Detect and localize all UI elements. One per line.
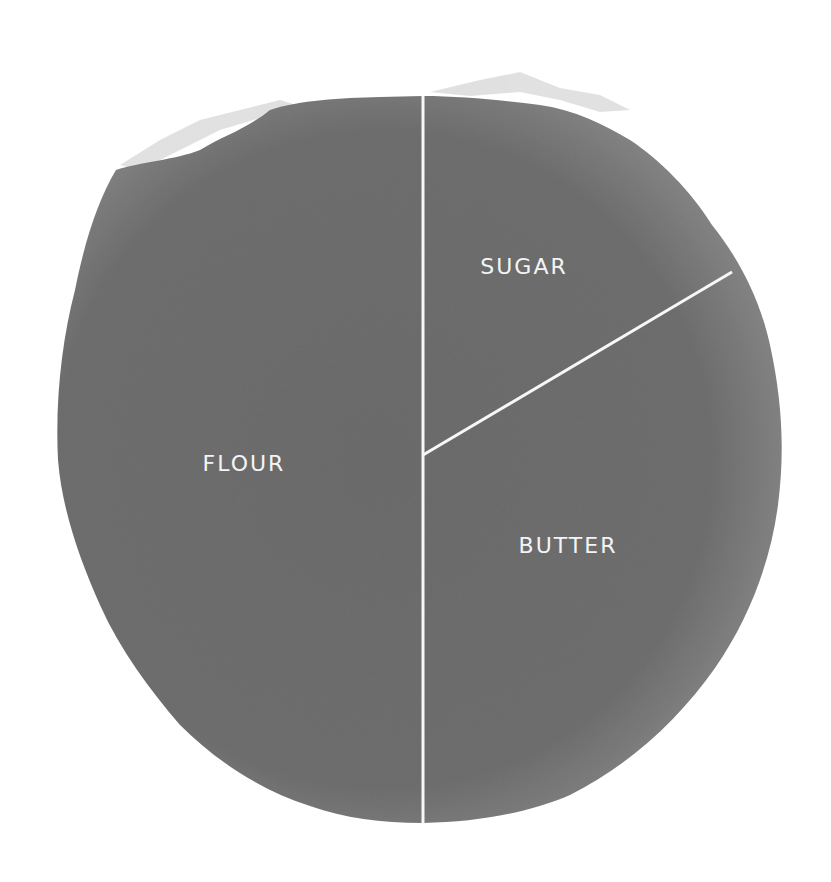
slice-label-flour: FLOUR xyxy=(203,451,286,476)
pie-chart-svg xyxy=(0,0,831,882)
slice-label-sugar: SUGAR xyxy=(480,254,567,279)
slice-label-butter: BUTTER xyxy=(519,533,618,558)
pie-body xyxy=(57,96,781,823)
pie-chart: FLOUR BUTTER SUGAR xyxy=(0,0,831,882)
